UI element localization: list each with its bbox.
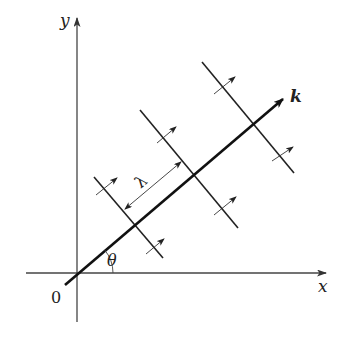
origin-label: 0 xyxy=(51,290,61,306)
x-axis-label: x xyxy=(318,278,328,295)
wavelength-double-arrow xyxy=(125,162,181,209)
wavefronts xyxy=(94,62,294,258)
wave-vector-k xyxy=(65,99,283,285)
plane-wave-diagram: y x 0 θ k λ xyxy=(0,0,348,344)
wavelength-marker xyxy=(125,162,181,209)
y-axis-label: y xyxy=(60,12,70,29)
axes xyxy=(26,18,326,322)
wavefront-line xyxy=(140,110,238,228)
propagation-arrows xyxy=(96,77,293,254)
angle-theta-label: θ xyxy=(107,253,117,269)
k-vector-line xyxy=(65,99,283,285)
wavefront-line xyxy=(94,177,163,258)
wave-vector-k-label: k xyxy=(290,88,302,105)
